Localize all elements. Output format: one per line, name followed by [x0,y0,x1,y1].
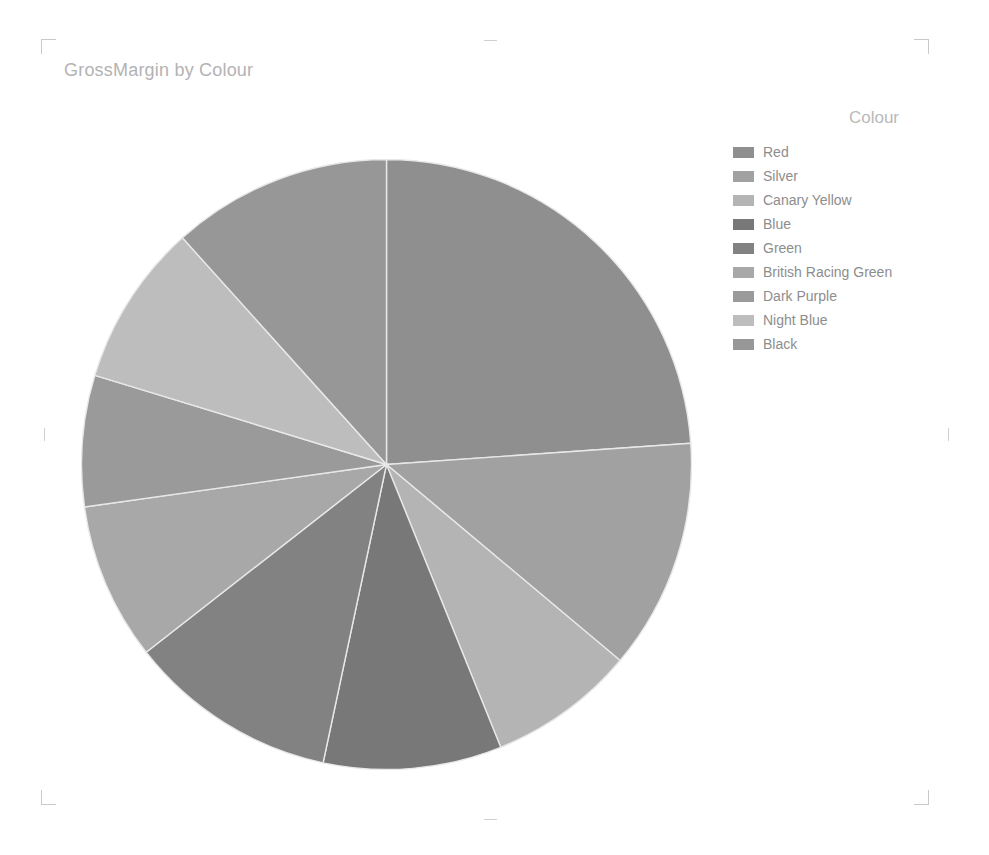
crop-mark-segment [41,804,56,805]
legend-item-label: Green [763,241,802,255]
pie-slice[interactable] [387,160,691,465]
legend-item[interactable]: Red [733,140,963,164]
crop-mark-segment [41,39,56,40]
legend-item[interactable]: Black [733,332,963,356]
legend-item[interactable]: Blue [733,212,963,236]
legend-item[interactable]: Silver [733,164,963,188]
crop-mark-segment [928,39,929,54]
resize-handle-right[interactable] [948,428,949,441]
legend-swatch-icon [733,219,754,230]
pie-slice-group [82,160,692,770]
legend-swatch-icon [733,147,754,158]
legend-swatch-icon [733,195,754,206]
legend-item[interactable]: Dark Purple [733,284,963,308]
chart-legend: Colour RedSilverCanary YellowBlueGreenBr… [733,108,963,356]
legend-item-label: Red [763,145,789,159]
crop-mark-segment [914,39,929,40]
resize-handle-bottom[interactable] [484,819,497,820]
crop-mark-segment [928,790,929,805]
legend-item[interactable]: Green [733,236,963,260]
legend-item[interactable]: Night Blue [733,308,963,332]
legend-swatch-icon [733,267,754,278]
legend-item-label: Night Blue [763,313,828,327]
legend-title: Colour [737,108,963,128]
legend-swatch-icon [733,339,754,350]
legend-item-label: Dark Purple [763,289,837,303]
chart-title: GrossMargin by Colour [64,60,253,81]
legend-item-label: Silver [763,169,798,183]
crop-mark-segment [914,804,929,805]
legend-item[interactable]: British Racing Green [733,260,963,284]
legend-swatch-icon [733,291,754,302]
crop-mark-segment [41,790,42,805]
crop-mark-segment [41,39,42,54]
resize-handle-left[interactable] [44,428,45,441]
legend-list: RedSilverCanary YellowBlueGreenBritish R… [733,140,963,356]
pie-chart[interactable] [81,159,692,770]
pie-chart-svg [81,159,692,770]
legend-item-label: Blue [763,217,791,231]
legend-item-label: Black [763,337,797,351]
legend-item[interactable]: Canary Yellow [733,188,963,212]
resize-handle-top[interactable] [484,40,497,41]
visual-canvas: GrossMargin by Colour Colour RedSilverCa… [0,0,989,855]
legend-swatch-icon [733,315,754,326]
legend-item-label: British Racing Green [763,265,892,279]
legend-swatch-icon [733,243,754,254]
legend-swatch-icon [733,171,754,182]
legend-item-label: Canary Yellow [763,193,852,207]
